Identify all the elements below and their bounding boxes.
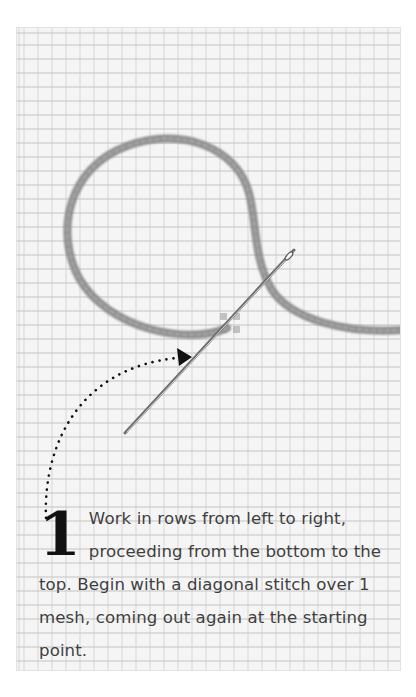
step-number: 1 xyxy=(39,508,81,564)
yarn-icon xyxy=(67,139,401,335)
step-caption: 1 Work in rows from left to right, proce… xyxy=(39,502,389,667)
dotted-arrow-icon xyxy=(46,348,192,518)
instruction-figure: 1 Work in rows from left to right, proce… xyxy=(16,27,401,671)
needle-icon xyxy=(125,250,294,433)
step-text: Work in rows from left to right, proceed… xyxy=(39,509,381,660)
